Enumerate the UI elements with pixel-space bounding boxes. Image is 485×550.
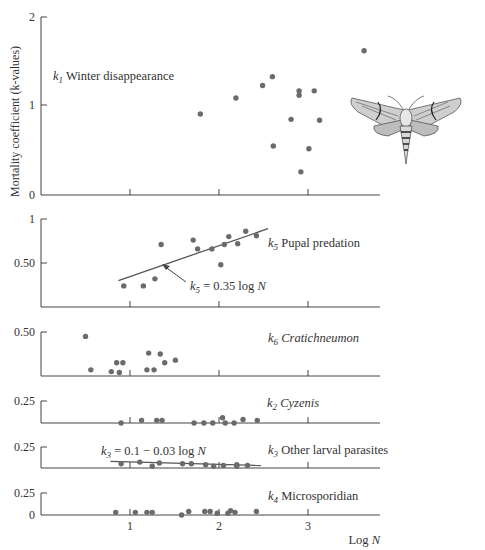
y-tick-label: 0.50 [14,325,35,339]
panel-k1: 012k1 Winter disappearance [29,10,380,202]
data-point [254,509,259,514]
data-point [150,510,155,515]
data-point [223,420,228,425]
data-point [317,118,322,123]
data-point [133,510,138,515]
data-point [240,417,245,422]
data-point [173,357,178,362]
data-point [118,461,123,466]
data-point [234,464,239,469]
data-point [137,459,142,464]
panel-k2: 0.25k2 Cyzenis [14,394,380,426]
y-tick-label: 1 [29,98,35,112]
x-axis-label: Log N [348,533,380,547]
data-point [180,461,185,466]
y-tick-label: 0 [29,188,35,202]
data-point [88,367,93,372]
data-point [361,48,366,53]
data-point [121,283,126,288]
y-tick-label: 0.25 [14,486,35,500]
data-point [260,83,265,88]
data-point [222,242,227,247]
data-point [221,463,226,468]
x-tick-label: 2 [216,519,222,533]
data-point [151,367,156,372]
x-tick-label: 3 [305,519,311,533]
data-point [233,95,238,100]
y-tick-label: 0.50 [14,256,35,270]
data-point [254,233,259,238]
data-point [159,418,164,423]
data-point [207,509,212,514]
y-tick-label: 0.25 [14,440,35,454]
y-tick-label: 0.25 [14,394,35,408]
data-point [154,418,159,423]
panel-label: k5 Pupal predation [268,236,361,252]
data-point [296,88,301,93]
data-point [312,88,317,93]
data-point [83,334,88,339]
data-point [152,276,157,281]
data-point [141,283,146,288]
data-point [306,146,311,151]
data-point [162,360,167,365]
data-point [215,511,220,516]
panel-label: k4 Microsporidian [268,489,359,505]
data-point [144,510,149,515]
data-point [220,415,225,420]
panel-label: k1 Winter disappearance [53,69,175,85]
data-point [255,418,260,423]
data-point [218,262,223,267]
x-tick-label: 1 [127,519,133,533]
panel-k6: 0.50k6 Cratichneumon [14,325,380,376]
data-point [298,169,303,174]
data-point [270,74,275,79]
y-tick-label: 0 [29,508,35,522]
data-point [117,370,122,375]
panel-k4: 00.25k4 Microsporidian [14,486,380,522]
data-point [226,234,231,239]
data-point [150,464,155,469]
panel-label: k2 Cyzenis [267,396,319,412]
k5-equation: k5 = 0.35 log N [190,279,266,295]
data-point [202,509,207,514]
data-point [203,462,208,467]
data-point [179,512,184,517]
y-tick-label: 2 [29,10,35,24]
data-point [139,418,144,423]
data-point [191,420,196,425]
k3-equation: k3 = 0.1 − 0.03 log N [101,444,206,460]
data-point [271,143,276,148]
data-point [243,229,248,234]
hawk-moth-illustration [348,80,464,165]
data-point [144,367,149,372]
data-point [288,117,293,122]
data-point [210,420,215,425]
data-point [186,509,191,514]
data-point [158,242,163,247]
panel-label: k3 Other larval parasites [268,443,388,459]
data-point [109,369,114,374]
data-point [113,510,118,515]
data-point [118,420,123,425]
data-point [235,241,240,246]
data-point [209,246,214,251]
data-point [189,461,194,466]
data-point [146,350,151,355]
data-point [211,464,216,469]
data-point [201,420,206,425]
data-point [114,360,119,365]
data-point [195,246,200,251]
data-point [245,463,250,468]
data-point [231,420,236,425]
panel-label: k6 Cratichneumon [268,331,359,347]
data-point [120,360,125,365]
k5-equation-annotation: k5 = 0.35 log N [162,264,266,295]
y-tick-label: 1 [29,212,35,226]
data-point [198,111,203,116]
data-point [157,460,162,465]
data-point [190,237,195,242]
data-point [232,510,237,515]
data-point [158,351,163,356]
y-axis-label: Mortality coefficient (k-values) [8,46,23,197]
